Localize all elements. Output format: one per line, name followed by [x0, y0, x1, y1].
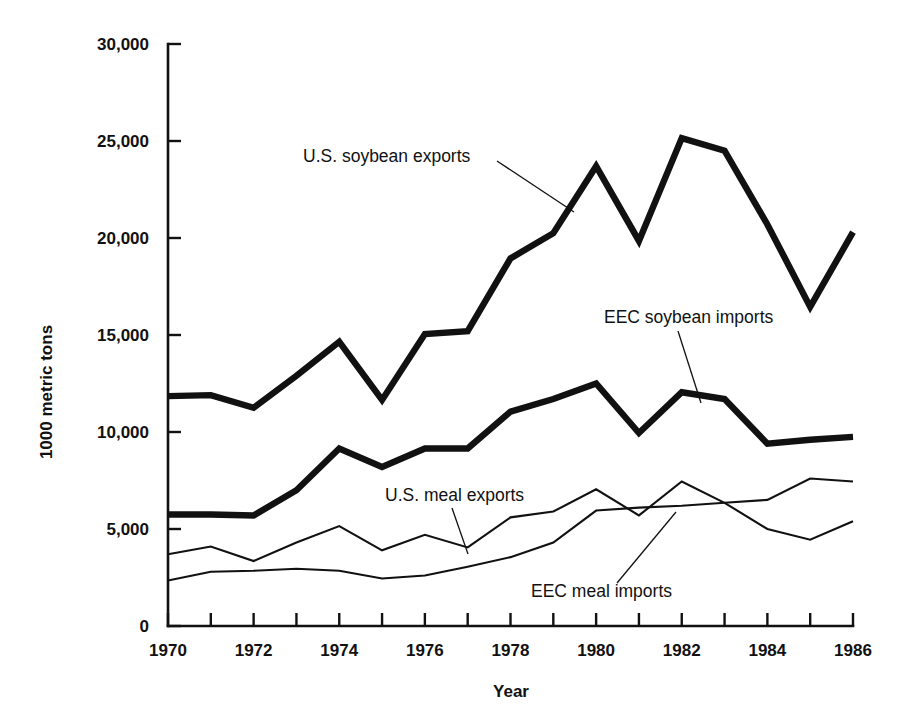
axes: 05,00010,00015,00020,00025,00030,000 197… — [97, 35, 872, 660]
x-axis-tick-labels: 197019721974197619781980198219841986 — [149, 641, 872, 660]
y-axis-ticks — [168, 44, 181, 626]
label-us-soybean-exports: U.S. soybean exports — [303, 146, 471, 166]
x-tick-label-1974: 1974 — [320, 641, 358, 660]
leader-line-us-meal-exports — [452, 508, 468, 554]
series-line-u-s-soybean-exports — [168, 138, 853, 408]
label-us-meal-exports: U.S. meal exports — [385, 485, 524, 505]
y-tick-label-0: 0 — [140, 617, 149, 636]
y-tick-label-30000: 30,000 — [97, 35, 149, 54]
x-tick-label-1986: 1986 — [834, 641, 872, 660]
label-eec-meal-imports: EEC meal imports — [531, 581, 672, 601]
chart-figure: 05,00010,00015,00020,00025,00030,000 197… — [0, 0, 913, 724]
y-tick-label-25000: 25,000 — [97, 132, 149, 151]
x-tick-label-1978: 1978 — [492, 641, 530, 660]
line-chart-canvas: 05,00010,00015,00020,00025,00030,000 197… — [0, 0, 913, 724]
leader-line-us-soybean-exports — [497, 161, 574, 212]
x-tick-label-1972: 1972 — [235, 641, 273, 660]
y-tick-label-10000: 10,000 — [97, 423, 149, 442]
x-axis-ticks — [168, 613, 853, 626]
data-series-group — [168, 138, 853, 580]
y-tick-label-15000: 15,000 — [97, 326, 149, 345]
x-tick-label-1976: 1976 — [406, 641, 444, 660]
y-tick-label-5000: 5,000 — [106, 520, 149, 539]
y-axis-tick-labels: 05,00010,00015,00020,00025,00030,000 — [97, 35, 149, 636]
x-tick-label-1980: 1980 — [577, 641, 615, 660]
label-eec-soybean-imports: EEC soybean imports — [604, 307, 773, 327]
x-axis-title: Year — [493, 682, 529, 701]
y-tick-label-20000: 20,000 — [97, 229, 149, 248]
x-tick-label-1984: 1984 — [748, 641, 786, 660]
x-tick-label-1970: 1970 — [149, 641, 187, 660]
y-axis-title: 1000 metric tons — [37, 325, 56, 459]
leader-line-eec-meal-imports — [617, 512, 676, 583]
series-annotations: U.S. soybean exports EEC soybean imports… — [303, 146, 773, 601]
x-tick-label-1982: 1982 — [663, 641, 701, 660]
